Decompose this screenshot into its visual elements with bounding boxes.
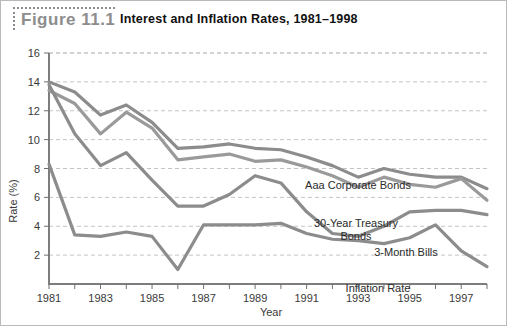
y-tick-label: 10: [28, 134, 40, 146]
x-tick-label: 1989: [243, 292, 267, 304]
x-tick-label: 1987: [191, 292, 215, 304]
y-tick-label: 8: [34, 163, 40, 175]
y-tick-label: 2: [34, 249, 40, 261]
series-label-aaa: Aaa Corporate Bonds: [305, 179, 411, 191]
y-tick-label: 12: [28, 105, 40, 117]
figure-title: Interest and Inflation Rates, 1981–1998: [120, 12, 358, 26]
x-tick-label: 1983: [88, 292, 112, 304]
y-tick-label: 6: [34, 191, 40, 203]
y-axis-tick-labels: 246810121416: [28, 47, 40, 261]
x-tick-label: 1991: [294, 292, 318, 304]
figure-header: Figure 11.1 Interest and Inflation Rates…: [1, 1, 507, 35]
x-tick-label: 1985: [140, 292, 164, 304]
series-label-treasury-line2: Bonds: [340, 230, 372, 242]
series-label-bills: 3-Month Bills: [374, 246, 438, 258]
x-axis-title: Year: [260, 306, 283, 318]
series-label-treasury-line1: 30-Year Treasury: [314, 217, 398, 229]
y-tick-label: 4: [34, 220, 40, 232]
x-tick-label: 1981: [37, 292, 61, 304]
series-line-aaa: [49, 82, 487, 189]
line-chart: 246810121416 198119831985198719891991199…: [1, 31, 507, 323]
y-axis-title: Rate (%): [7, 179, 19, 222]
figure-container: Figure 11.1 Interest and Inflation Rates…: [0, 0, 507, 326]
data-series-lines: [49, 82, 487, 270]
y-tick-label: 16: [28, 47, 40, 59]
y-tick-label: 14: [28, 76, 40, 88]
series-label-inflation: Inflation Rate: [346, 282, 411, 294]
figure-label: Figure 11.1: [13, 7, 115, 30]
series-line-treasury: [49, 91, 487, 201]
x-tick-label: 1997: [449, 292, 473, 304]
